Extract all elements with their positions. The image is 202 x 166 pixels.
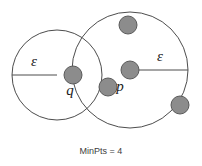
diagram-caption: MinPts = 4 [80,146,123,156]
data-point-p [121,61,139,79]
point-label-p: p [115,78,124,94]
diagram-canvas: ε ε q p MinPts = 4 [0,0,202,166]
epsilon-label-q: ε [31,53,37,69]
data-point-q [64,66,82,84]
data-point-middle [99,78,117,96]
epsilon-label-p: ε [157,48,163,64]
point-label-q: q [66,82,74,98]
dbscan-diagram: ε ε q p MinPts = 4 [0,0,202,166]
data-point-bottom-right [171,96,189,114]
data-point-top [119,16,137,34]
